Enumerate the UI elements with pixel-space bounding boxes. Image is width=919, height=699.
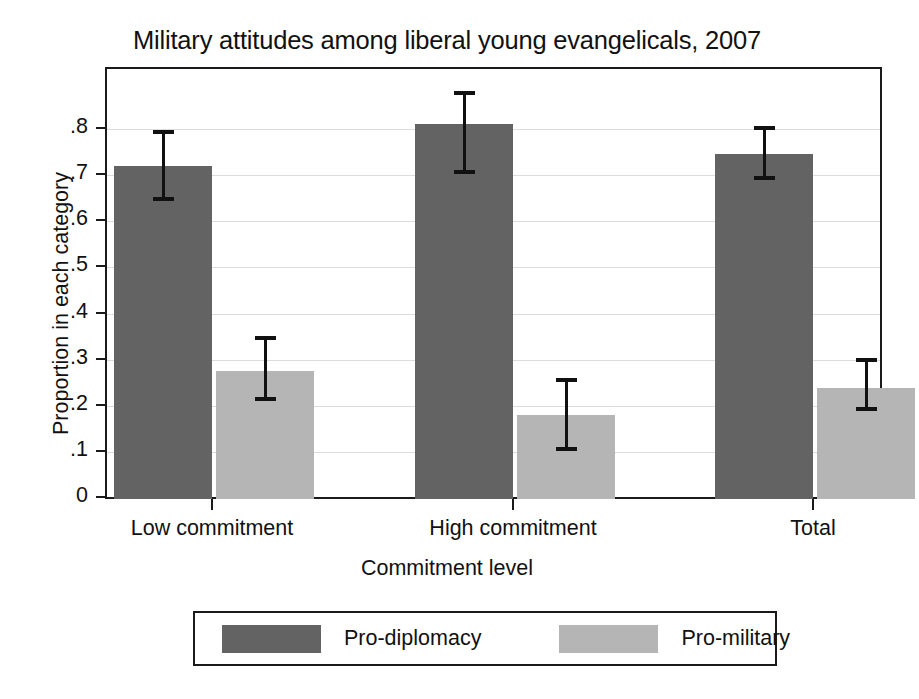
bar [715, 154, 813, 499]
x-axis-tick [812, 499, 814, 510]
error-bar-line [463, 91, 466, 174]
error-bar-cap [754, 176, 775, 180]
error-bar-cap [454, 170, 475, 174]
y-axis-tick-label: .3 [28, 345, 88, 370]
error-bar-cap [556, 378, 577, 382]
error-bar-cap [856, 358, 877, 362]
y-axis-tick [96, 358, 105, 360]
error-bar-cap [153, 197, 174, 201]
legend-label: Pro-military [681, 626, 790, 651]
error-bar-line [162, 130, 165, 201]
chart-title: Military attitudes among liberal young e… [0, 26, 894, 55]
x-axis-tick-label: Low commitment [62, 516, 362, 541]
y-axis-tick-label: .6 [28, 206, 88, 231]
y-axis-tick [96, 312, 105, 314]
error-bar-cap [856, 407, 877, 411]
bar [114, 166, 212, 499]
y-axis-tick [96, 496, 105, 498]
legend-swatch-icon [559, 625, 658, 653]
y-axis-tick-label: .1 [28, 437, 88, 462]
y-axis-tick-label: .2 [28, 391, 88, 416]
y-axis-tick-label: .5 [28, 252, 88, 277]
error-bar-line [865, 358, 868, 411]
y-axis-tick-label: .8 [28, 114, 88, 139]
error-bar-cap [454, 91, 475, 95]
legend-swatch-icon [222, 625, 321, 653]
legend-label: Pro-diplomacy [344, 626, 481, 651]
error-bar-cap [153, 130, 174, 134]
y-axis-tick-label: .7 [28, 160, 88, 185]
bar [415, 124, 513, 499]
legend: Pro-diplomacy Pro-military [193, 611, 777, 666]
error-bar-cap [255, 336, 276, 340]
error-bar-cap [556, 447, 577, 451]
y-axis-tick [96, 127, 105, 129]
y-axis-tick [96, 404, 105, 406]
error-bar-line [264, 336, 267, 401]
x-axis-title: Commitment level [0, 556, 894, 581]
legend-item-pro-military[interactable]: Pro-military [559, 625, 790, 653]
y-axis-tick [96, 450, 105, 452]
y-axis-tick-label: 0 [28, 483, 88, 508]
y-axis-tick [96, 173, 105, 175]
error-bar-line [565, 378, 568, 451]
plot-area [105, 67, 882, 499]
error-bar-line [763, 126, 766, 180]
x-axis-tick-label: Total [663, 516, 919, 541]
x-axis-tick [211, 499, 213, 510]
y-axis-tick-label: .4 [28, 299, 88, 324]
error-bar-cap [754, 126, 775, 130]
y-axis-tick [96, 219, 105, 221]
error-bar-cap [255, 397, 276, 401]
y-axis-tick [96, 265, 105, 267]
legend-item-pro-diplomacy[interactable]: Pro-diplomacy [222, 625, 481, 653]
x-axis-tick-label: High commitment [363, 516, 663, 541]
x-axis-tick [512, 499, 514, 510]
